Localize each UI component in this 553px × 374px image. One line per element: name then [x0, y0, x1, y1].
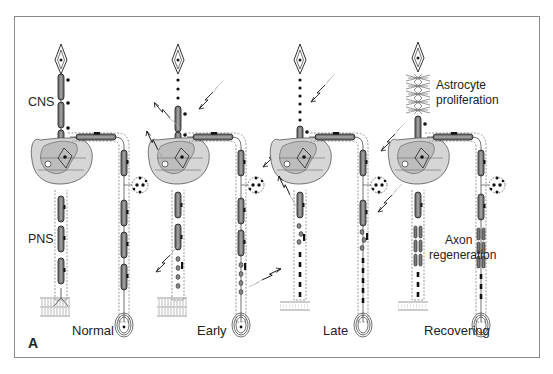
stage-label-recovering: Recovering	[424, 323, 490, 338]
astrocyte-label-line2: proliferation	[436, 93, 499, 107]
axon-regeneration-label-line2: regeneration	[429, 248, 496, 262]
stage-label-late: Late	[323, 323, 348, 338]
astrocyte-label-line1: Astrocyte	[436, 78, 486, 92]
panel-letter: A	[28, 335, 38, 351]
axon-regeneration-label-line1: Axon	[445, 233, 472, 247]
stage-label-normal: Normal	[72, 323, 114, 338]
cns-label: CNS	[28, 95, 54, 109]
stage-label-early: Early	[197, 323, 227, 338]
neuropathy-diagram	[0, 0, 553, 374]
stage-late	[270, 44, 405, 337]
stage-normal	[31, 44, 148, 337]
pns-label: PNS	[28, 232, 54, 246]
stage-early	[139, 44, 287, 337]
